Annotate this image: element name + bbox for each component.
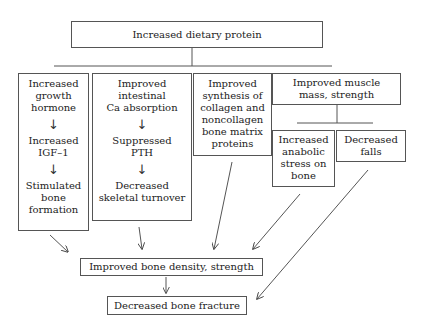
collagen-label: Improved synthesis of collagen and nonco…: [200, 78, 265, 150]
growth-hormone-box: Increased growth hormone ↓ Increased IGF…: [18, 73, 89, 231]
arrow-skeletal-turnover: [139, 227, 142, 249]
arrow-bone-formation: [50, 235, 68, 252]
dietary-protein-label: Increased dietary protein: [132, 29, 261, 41]
dietary-protein-box: Increased dietary protein: [71, 21, 323, 48]
muscle-box: Improved muscle mass, strength: [272, 73, 401, 105]
falls-label: Decreased falls: [344, 134, 398, 158]
falls-box: Decreased falls: [336, 130, 406, 162]
bone-formation-label: Stimulated bone formation: [26, 180, 82, 216]
growth-hormone-label: Increased growth hormone: [28, 78, 78, 114]
arrow-down-icon: ↓: [48, 118, 59, 132]
bone-density-box: Improved bone density, strength: [80, 258, 263, 276]
muscle-label: Improved muscle mass, strength: [293, 77, 381, 101]
bone-density-label: Improved bone density, strength: [89, 261, 254, 273]
skeletal-turnover-label: Decreased skeletal turnover: [99, 180, 186, 204]
arrow-down-icon: ↓: [48, 163, 59, 177]
calcium-box: Improved intestinal Ca absorption ↓ Supp…: [92, 73, 192, 221]
arrow-down-icon: ↓: [137, 118, 148, 132]
arrow-collagen: [214, 162, 232, 249]
anabolic-stress-label: Increased anabolic stress on bone: [278, 134, 328, 182]
anabolic-stress-box: Increased anabolic stress on bone: [272, 130, 335, 187]
collagen-box: Improved synthesis of collagen and nonco…: [193, 73, 272, 156]
arrow-falls: [257, 170, 368, 299]
arrow-down-icon: ↓: [137, 163, 148, 177]
igf1-label: Increased IGF–1: [28, 135, 78, 159]
calcium-absorption-label: Improved intestinal Ca absorption: [106, 78, 177, 114]
bone-fracture-box: Decreased bone fracture: [107, 296, 247, 315]
arrow-anabolic: [253, 194, 300, 249]
bone-fracture-label: Decreased bone fracture: [114, 300, 240, 312]
pth-label: Suppressed PTH: [112, 135, 171, 159]
